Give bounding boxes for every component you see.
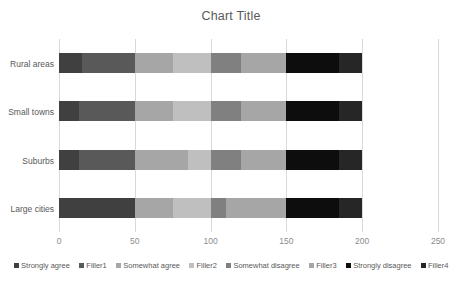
legend-item[interactable]: Strongly disagree: [346, 261, 412, 270]
stacked-bar[interactable]: [59, 198, 362, 218]
bar-segment[interactable]: [59, 101, 79, 121]
tick-label: 200: [355, 236, 369, 246]
tick-label: 50: [130, 236, 139, 246]
bar-segment[interactable]: [79, 150, 135, 170]
legend-item[interactable]: Somewhat disagree: [226, 261, 300, 270]
bar-segment[interactable]: [173, 198, 211, 218]
legend-item[interactable]: Strongly agree: [14, 261, 70, 270]
stacked-bar[interactable]: [59, 53, 362, 73]
bar-segment[interactable]: [59, 198, 135, 218]
legend-label: Filler3: [316, 261, 336, 270]
chart-container: Chart Title Rural areasSmall townsSuburb…: [0, 0, 462, 282]
legend-swatch-icon: [226, 263, 231, 268]
bar-segment[interactable]: [241, 101, 286, 121]
legend-label: Somewhat agree: [123, 261, 180, 270]
bar-segment[interactable]: [135, 101, 173, 121]
bar-segment[interactable]: [79, 101, 135, 121]
bar-segment[interactable]: [211, 150, 241, 170]
gridline: [362, 39, 363, 232]
legend-label: Filler4: [428, 261, 448, 270]
legend-swatch-icon: [116, 263, 121, 268]
bar-segment[interactable]: [135, 53, 173, 73]
category-label: Large cities: [0, 204, 54, 214]
bar-segment[interactable]: [59, 53, 82, 73]
bar-segment[interactable]: [211, 198, 226, 218]
chart-title: Chart Title: [0, 9, 462, 23]
legend-label: Strongly agree: [21, 261, 70, 270]
bar-segment[interactable]: [286, 150, 339, 170]
legend-label: Filler2: [196, 261, 216, 270]
legend-item[interactable]: Filler3: [309, 261, 337, 270]
bar-segment[interactable]: [173, 101, 211, 121]
bar-segment[interactable]: [339, 150, 362, 170]
bar-segment[interactable]: [286, 53, 339, 73]
bar-segment[interactable]: [82, 53, 135, 73]
legend-item[interactable]: Filler2: [189, 261, 217, 270]
bar-segment[interactable]: [211, 53, 241, 73]
legend-label: Somewhat disagree: [233, 261, 299, 270]
bar-segment[interactable]: [241, 150, 286, 170]
bar-segment[interactable]: [241, 53, 286, 73]
bar-segment[interactable]: [339, 53, 362, 73]
legend-label: Filler1: [86, 261, 106, 270]
legend-swatch-icon: [421, 263, 426, 268]
tick-label: 100: [204, 236, 218, 246]
gridline: [438, 39, 439, 232]
bar-segment[interactable]: [59, 150, 79, 170]
tick-label: 0: [57, 236, 62, 246]
chart-legend: Strongly agreeFiller1Somewhat agreeFille…: [0, 261, 462, 270]
bar-segment[interactable]: [188, 150, 211, 170]
tick-label: 150: [279, 236, 293, 246]
stacked-bar[interactable]: [59, 150, 362, 170]
bar-segment[interactable]: [339, 198, 362, 218]
tick-label: 250: [431, 236, 445, 246]
legend-label: Strongly disagree: [353, 261, 411, 270]
legend-item[interactable]: Filler4: [421, 261, 449, 270]
plot-area: [59, 39, 438, 232]
legend-swatch-icon: [309, 263, 314, 268]
legend-swatch-icon: [14, 263, 19, 268]
stacked-bar[interactable]: [59, 101, 362, 121]
bar-segment[interactable]: [135, 198, 173, 218]
legend-item[interactable]: Somewhat agree: [116, 261, 180, 270]
category-label: Suburbs: [0, 156, 54, 166]
category-label: Rural areas: [0, 59, 54, 69]
bar-segment[interactable]: [226, 198, 287, 218]
legend-swatch-icon: [79, 263, 84, 268]
bar-segment[interactable]: [339, 101, 362, 121]
legend-swatch-icon: [346, 263, 351, 268]
bar-segment[interactable]: [135, 150, 188, 170]
bar-segment[interactable]: [286, 198, 339, 218]
category-label: Small towns: [0, 107, 54, 117]
legend-item[interactable]: Filler1: [79, 261, 107, 270]
bar-segment[interactable]: [286, 101, 339, 121]
bar-segment[interactable]: [211, 101, 241, 121]
bar-segment[interactable]: [173, 53, 211, 73]
legend-swatch-icon: [189, 263, 194, 268]
